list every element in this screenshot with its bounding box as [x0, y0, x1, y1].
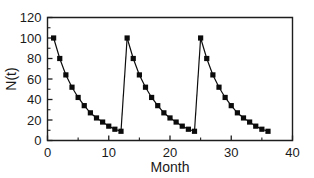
data-point-marker: [51, 35, 56, 40]
data-point-marker: [76, 95, 81, 100]
data-point-marker: [69, 85, 74, 90]
series-connector: [121, 38, 127, 131]
data-point-marker: [137, 72, 142, 77]
data-point-marker: [143, 85, 148, 90]
data-point-marker: [100, 119, 105, 124]
series-connector: [195, 38, 201, 131]
data-point-marker: [235, 110, 240, 115]
data-point-marker: [229, 103, 234, 108]
data-point-marker: [192, 129, 197, 134]
data-point-marker: [265, 129, 270, 134]
data-point-marker: [198, 35, 203, 40]
data-point-marker: [210, 72, 215, 77]
data-point-marker: [63, 72, 68, 77]
x-tick-label: 40: [285, 145, 299, 160]
x-tick-label: 20: [163, 145, 177, 160]
data-point-marker: [186, 127, 191, 132]
data-point-marker: [82, 103, 87, 108]
x-tick-label: 30: [224, 145, 238, 160]
series-line: [201, 38, 268, 131]
y-axis-title: N(t): [3, 67, 19, 90]
data-point-marker: [216, 85, 221, 90]
chart-figure: 020406080100120010203040MonthN(t): [0, 0, 314, 178]
x-tick-label: 10: [102, 145, 116, 160]
data-point-marker: [174, 119, 179, 124]
data-point-marker: [167, 115, 172, 120]
y-tick-label: 40: [27, 92, 41, 107]
series-line: [127, 38, 194, 131]
data-point-marker: [106, 124, 111, 129]
y-tick-label: 120: [20, 10, 42, 25]
data-point-marker: [88, 110, 93, 115]
data-point-marker: [125, 35, 130, 40]
plot-frame: [48, 18, 293, 141]
data-point-marker: [223, 95, 228, 100]
data-point-marker: [57, 56, 62, 61]
data-point-marker: [149, 95, 154, 100]
data-point-marker: [204, 56, 209, 61]
y-tick-label: 60: [27, 72, 41, 87]
y-tick-label: 80: [27, 51, 41, 66]
data-point-marker: [253, 124, 258, 129]
x-tick-label: 0: [44, 145, 51, 160]
data-point-marker: [131, 56, 136, 61]
y-tick-label: 0: [34, 133, 41, 148]
y-tick-label: 20: [27, 113, 41, 128]
x-axis-title: Month: [151, 159, 190, 175]
data-point-marker: [259, 127, 264, 132]
data-point-marker: [94, 115, 99, 120]
data-point-marker: [161, 110, 166, 115]
y-tick-label: 100: [20, 31, 42, 46]
data-point-marker: [155, 103, 160, 108]
data-point-marker: [180, 124, 185, 129]
data-point-marker: [118, 129, 123, 134]
series-line: [54, 38, 121, 131]
chart-canvas: 020406080100120010203040MonthN(t): [0, 0, 314, 178]
data-point-marker: [112, 127, 117, 132]
data-point-marker: [247, 119, 252, 124]
data-point-marker: [241, 115, 246, 120]
